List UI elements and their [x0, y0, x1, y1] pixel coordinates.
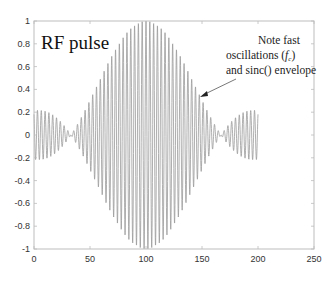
annotation-arrow [205, 79, 236, 94]
y-tick-label: 0.4 [17, 84, 30, 94]
x-tick-label: 250 [306, 254, 321, 264]
rf-pulse-signal [34, 21, 258, 249]
y-tick-label: -0.4 [14, 176, 30, 186]
x-tick-label: 0 [31, 254, 36, 264]
chart-title: RF pulse [41, 32, 109, 53]
y-tick-label: 0.6 [17, 62, 30, 72]
x-tick-label: 100 [138, 254, 153, 264]
annotation: Note fast oscillations (fc) and sinc() e… [200, 34, 316, 97]
y-tick-label: -0.2 [14, 153, 30, 163]
arrow-head-icon [200, 91, 208, 97]
x-tick-label: 150 [194, 254, 209, 264]
annotation-line-3: and sinc() envelope [226, 64, 316, 77]
y-tick-label: 0.2 [17, 107, 30, 117]
y-tick-label: -1 [22, 244, 30, 254]
rf-pulse-line [34, 21, 258, 249]
y-tick-label: -0.6 [14, 198, 30, 208]
annotation-line-1: Note fast [258, 34, 301, 46]
y-tick-label: 0 [25, 130, 30, 140]
x-tick-label: 50 [85, 254, 95, 264]
rf-pulse-chart: 050100150200250-1-0.8-0.6-0.4-0.200.20.4… [0, 0, 336, 281]
y-tick-label: 1 [25, 16, 30, 26]
annotation-line-2: oscillations (fc) [226, 49, 295, 63]
x-tick-label: 200 [250, 254, 265, 264]
y-tick-label: 0.8 [17, 39, 30, 49]
y-tick-label: -0.8 [14, 221, 30, 231]
